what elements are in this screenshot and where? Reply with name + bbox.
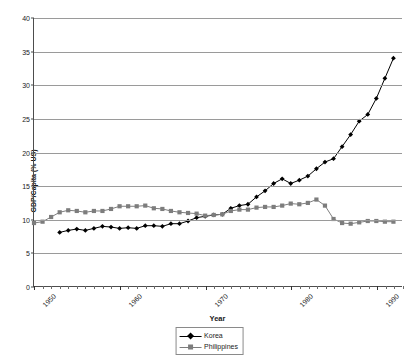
x-tick-mark-minor <box>68 286 69 289</box>
data-point <box>254 206 258 210</box>
data-point <box>357 220 361 224</box>
x-tick-mark-minor <box>369 286 370 289</box>
data-point <box>92 226 97 231</box>
data-point <box>109 225 114 230</box>
x-tick-mark-minor <box>180 286 181 289</box>
y-tick-label: 30 <box>22 82 30 89</box>
data-point <box>314 197 318 201</box>
x-tick-label: 1980 <box>299 292 315 308</box>
x-tick-mark-minor <box>85 286 86 289</box>
x-tick-label: 1990 <box>384 292 400 308</box>
plot-area: 051015202530354019501960197019801990 <box>33 18 402 287</box>
data-point <box>186 211 190 215</box>
x-tick-mark-minor <box>334 286 335 289</box>
data-point <box>160 207 164 211</box>
data-point <box>374 96 379 101</box>
data-point <box>212 213 216 217</box>
gridline <box>34 253 402 254</box>
x-tick-mark-minor <box>266 286 267 289</box>
chart-legend: Korea Philippines <box>175 327 244 355</box>
y-tick-mark <box>31 219 34 220</box>
data-point <box>117 204 121 208</box>
data-point <box>134 226 139 231</box>
y-tick-mark <box>31 253 34 254</box>
x-tick-mark-minor <box>394 286 395 289</box>
x-tick-mark-minor <box>240 286 241 289</box>
data-point <box>57 230 62 235</box>
legend-label-korea: Korea <box>201 331 223 340</box>
gridline <box>34 186 402 187</box>
x-tick-mark-minor <box>300 286 301 289</box>
x-tick-mark-minor <box>403 286 404 289</box>
x-tick-mark-major <box>377 286 378 290</box>
y-tick-label: 15 <box>22 183 30 190</box>
data-point <box>382 76 387 81</box>
x-tick-mark-major <box>291 286 292 290</box>
x-tick-mark-minor <box>94 286 95 289</box>
korea-series-marker-icon <box>179 331 201 340</box>
data-point <box>195 212 199 216</box>
data-point <box>152 206 156 210</box>
series-philippines <box>32 197 396 225</box>
y-tick-mark <box>31 152 34 153</box>
x-tick-mark-minor <box>137 286 138 289</box>
gdp-per-capita-line-chart: GDP/Capita (% US) 0510152025303540195019… <box>0 0 419 362</box>
gridline <box>34 18 402 19</box>
legend-item-korea[interactable]: Korea <box>179 330 238 341</box>
x-tick-mark-minor <box>60 286 61 289</box>
data-point <box>66 208 70 212</box>
data-point <box>83 210 87 214</box>
x-tick-label: 1970 <box>213 292 229 308</box>
legend-label-philippines: Philippines <box>201 342 238 351</box>
philippines-series-marker-icon <box>179 342 201 351</box>
x-tick-label: 1960 <box>127 292 143 308</box>
data-point <box>126 225 131 230</box>
x-tick-label: 1950 <box>41 292 57 308</box>
data-point <box>126 204 130 208</box>
data-point <box>169 209 173 213</box>
data-point <box>160 224 165 229</box>
series-korea <box>57 56 396 235</box>
x-tick-mark-minor <box>77 286 78 289</box>
y-tick-label: 5 <box>26 250 30 257</box>
y-tick-label: 25 <box>22 115 30 122</box>
data-point <box>100 209 104 213</box>
y-tick-mark <box>31 118 34 119</box>
x-tick-mark-minor <box>360 286 361 289</box>
y-tick-mark <box>31 18 34 19</box>
data-point <box>117 226 122 231</box>
data-point <box>151 223 156 228</box>
data-point <box>66 228 71 233</box>
data-point <box>203 214 207 218</box>
x-tick-mark-minor <box>214 286 215 289</box>
x-tick-mark-major <box>206 286 207 290</box>
y-tick-label: 35 <box>22 48 30 55</box>
data-point <box>58 210 62 214</box>
x-tick-mark-minor <box>274 286 275 289</box>
x-tick-mark-minor <box>249 286 250 289</box>
data-point <box>263 205 267 209</box>
data-point <box>32 221 36 225</box>
x-tick-mark-minor <box>51 286 52 289</box>
data-point <box>83 228 88 233</box>
x-tick-mark-major <box>120 286 121 290</box>
y-tick-mark <box>31 85 34 86</box>
x-tick-mark-minor <box>43 286 44 289</box>
data-point <box>272 205 276 209</box>
x-tick-mark-minor <box>343 286 344 289</box>
y-tick-mark <box>31 186 34 187</box>
data-point <box>74 227 79 232</box>
y-tick-label: 10 <box>22 216 30 223</box>
x-tick-mark-minor <box>197 286 198 289</box>
y-tick-label: 0 <box>26 284 30 291</box>
legend-item-philippines[interactable]: Philippines <box>179 341 238 352</box>
data-point <box>229 209 233 213</box>
data-point <box>340 221 344 225</box>
data-point <box>143 204 147 208</box>
x-tick-mark-minor <box>111 286 112 289</box>
y-tick-label: 40 <box>22 15 30 22</box>
data-point <box>306 201 310 205</box>
data-point <box>246 208 250 212</box>
x-tick-mark-major <box>34 286 35 290</box>
x-tick-mark-minor <box>188 286 189 289</box>
